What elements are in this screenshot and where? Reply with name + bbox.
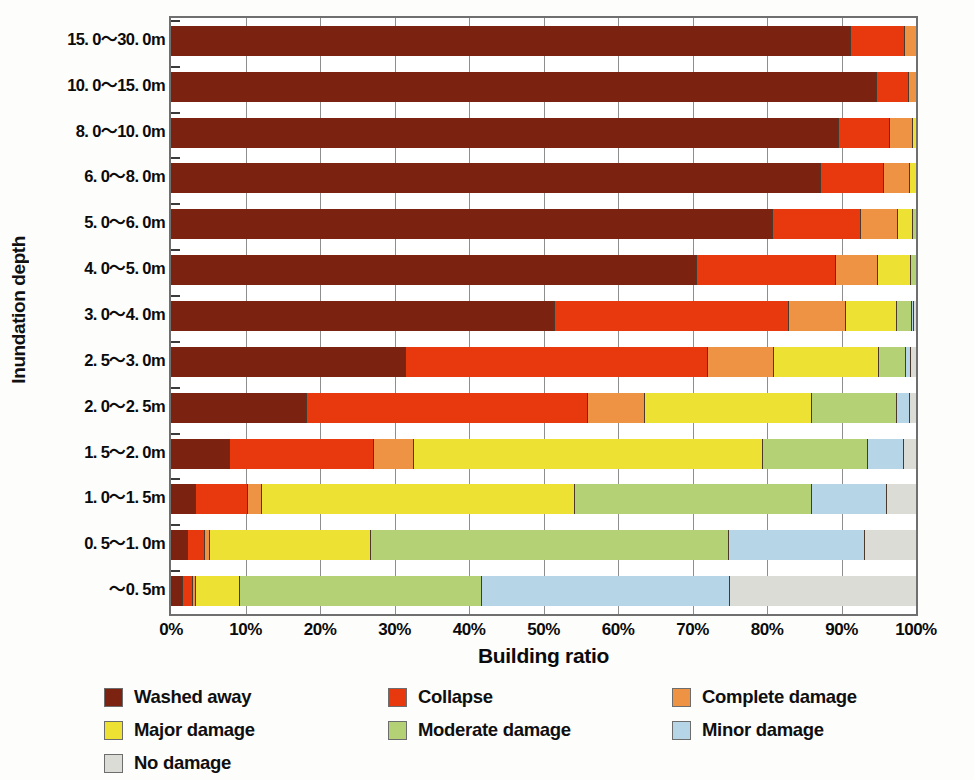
bar-segment[interactable]: [171, 163, 821, 193]
bar-segment[interactable]: [262, 484, 575, 514]
bar-segment[interactable]: [887, 484, 916, 514]
bar-segment[interactable]: [890, 118, 913, 148]
x-axis-tick-labels: 0%10%20%30%40%50%60%70%80%90%100%: [169, 620, 918, 644]
bar-segment[interactable]: [645, 393, 812, 423]
bar-segment[interactable]: [555, 301, 789, 331]
bar-segment[interactable]: [897, 393, 910, 423]
y-tickmark: [171, 341, 180, 343]
bar-segment[interactable]: [171, 530, 188, 560]
stacked-bar-chart: Inundation depth 15. 0〜30. 0m10. 0〜15. 0…: [0, 0, 974, 780]
bar-row[interactable]: [171, 209, 916, 239]
bar-row[interactable]: [171, 118, 916, 148]
bar-segment[interactable]: [588, 393, 645, 423]
bar-row[interactable]: [171, 301, 916, 331]
bar-segment[interactable]: [374, 439, 414, 469]
y-axis-tick-label: 0. 5〜1. 0m: [84, 534, 165, 552]
legend-item[interactable]: Collapse: [388, 684, 493, 710]
bar-segment[interactable]: [406, 347, 708, 377]
bar-segment[interactable]: [171, 301, 555, 331]
bar-segment[interactable]: [905, 26, 916, 56]
bar-segment[interactable]: [861, 209, 898, 239]
bar-segment[interactable]: [482, 576, 730, 606]
legend-item[interactable]: Major damage: [104, 717, 255, 743]
bar-segment[interactable]: [171, 209, 773, 239]
bar-row[interactable]: [171, 72, 916, 102]
bar-segment[interactable]: [884, 163, 910, 193]
bar-segment[interactable]: [904, 439, 916, 469]
bar-segment[interactable]: [171, 576, 183, 606]
bar-segment[interactable]: [708, 347, 774, 377]
bar-segment[interactable]: [248, 484, 262, 514]
bar-segment[interactable]: [196, 484, 247, 514]
bar-segment[interactable]: [697, 255, 836, 285]
bar-segment[interactable]: [913, 118, 916, 148]
bar-segment[interactable]: [839, 118, 890, 148]
bar-segment[interactable]: [188, 530, 205, 560]
legend-swatch-washed-away: [104, 688, 123, 707]
bar-row[interactable]: [171, 26, 916, 56]
bar-segment[interactable]: [879, 347, 906, 377]
bar-row[interactable]: [171, 163, 916, 193]
bar-row[interactable]: [171, 484, 916, 514]
bar-segment[interactable]: [171, 393, 307, 423]
bar-segment[interactable]: [911, 347, 915, 377]
bar-segment[interactable]: [575, 484, 813, 514]
bar-segment[interactable]: [789, 301, 846, 331]
bar-segment[interactable]: [171, 72, 877, 102]
bar-segment[interactable]: [911, 255, 916, 285]
bar-segment[interactable]: [371, 530, 729, 560]
bar-row[interactable]: [171, 255, 916, 285]
y-axis-tick-label: 8. 0〜10. 0m: [76, 122, 165, 140]
bar-segment[interactable]: [171, 484, 196, 514]
bar-segment[interactable]: [812, 393, 897, 423]
bar-segment[interactable]: [210, 530, 371, 560]
bar-segment[interactable]: [812, 484, 887, 514]
bar-segment[interactable]: [910, 393, 916, 423]
bar-segment[interactable]: [910, 163, 916, 193]
bar-segment[interactable]: [897, 301, 912, 331]
bar-segment[interactable]: [171, 255, 697, 285]
bar-row[interactable]: [171, 576, 916, 606]
bar-segment[interactable]: [877, 72, 909, 102]
bar-segment[interactable]: [240, 576, 482, 606]
y-tickmark: [171, 570, 180, 572]
bar-segment[interactable]: [821, 163, 884, 193]
bar-segment[interactable]: [914, 301, 915, 331]
legend-item[interactable]: Washed away: [104, 684, 251, 710]
bar-segment[interactable]: [183, 576, 193, 606]
bar-segment[interactable]: [836, 255, 878, 285]
bar-segment[interactable]: [865, 530, 916, 560]
x-axis-tick-label: 10%: [229, 620, 262, 640]
bar-segment[interactable]: [846, 301, 897, 331]
bar-row[interactable]: [171, 530, 916, 560]
legend-item[interactable]: Moderate damage: [388, 717, 571, 743]
x-axis-tick-label: 20%: [304, 620, 337, 640]
x-axis-title: Building ratio: [169, 644, 918, 668]
bar-segment[interactable]: [171, 439, 230, 469]
bar-segment[interactable]: [196, 576, 240, 606]
bar-segment[interactable]: [909, 72, 916, 102]
legend-item[interactable]: Complete damage: [672, 684, 857, 710]
bar-segment[interactable]: [763, 439, 869, 469]
bar-segment[interactable]: [730, 576, 916, 606]
bar-row[interactable]: [171, 393, 916, 423]
legend-item[interactable]: No damage: [104, 750, 231, 776]
bar-segment[interactable]: [171, 347, 406, 377]
bar-segment[interactable]: [913, 209, 916, 239]
bar-segment[interactable]: [171, 118, 839, 148]
bar-segment[interactable]: [851, 26, 905, 56]
bar-row[interactable]: [171, 347, 916, 377]
y-tickmark: [171, 249, 180, 251]
bar-segment[interactable]: [414, 439, 763, 469]
bar-segment[interactable]: [171, 26, 851, 56]
bar-segment[interactable]: [773, 209, 861, 239]
bar-segment[interactable]: [878, 255, 911, 285]
bar-segment[interactable]: [307, 393, 588, 423]
bar-segment[interactable]: [898, 209, 913, 239]
bar-segment[interactable]: [868, 439, 904, 469]
bar-segment[interactable]: [729, 530, 865, 560]
bar-segment[interactable]: [774, 347, 879, 377]
legend-item[interactable]: Minor damage: [672, 717, 824, 743]
bar-segment[interactable]: [230, 439, 374, 469]
bar-row[interactable]: [171, 439, 916, 469]
